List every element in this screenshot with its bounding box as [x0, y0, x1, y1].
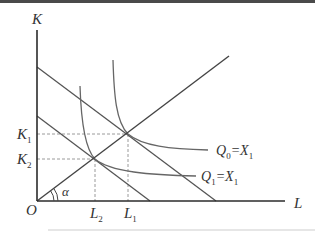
origin-label: O	[26, 202, 37, 218]
k-axis-label: K	[31, 11, 43, 27]
isoquant-diagram: K L O α K1 K2 L2 L1 Q0=X1 Q1=X1	[0, 0, 315, 232]
isoquant-q0	[113, 60, 208, 150]
q0-label: Q0=X1	[216, 143, 253, 161]
k2-label: K2	[16, 151, 32, 170]
isoquant-q1	[80, 86, 196, 176]
alpha-label: α	[62, 184, 70, 199]
l2-label: L2	[89, 205, 103, 224]
q1-label: Q1=X1	[201, 169, 238, 187]
bottom-border	[48, 229, 315, 231]
l1-label: L1	[123, 205, 137, 224]
axes	[37, 30, 285, 201]
k1-label: K1	[16, 126, 32, 145]
l-axis-label: L	[293, 195, 302, 211]
isoquants	[80, 60, 208, 176]
